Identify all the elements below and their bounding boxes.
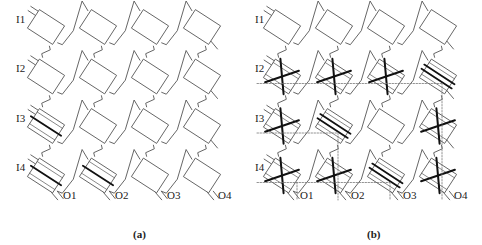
switch-2-2	[315, 59, 352, 94]
switch-3-3	[131, 109, 168, 144]
switch-2-1	[263, 59, 300, 94]
switch-grid-b	[241, 0, 482, 245]
caption-b: (b)	[367, 228, 380, 240]
switch-3-1	[27, 109, 64, 144]
output-label-o1: O1	[63, 190, 76, 201]
switch-2-1	[27, 59, 64, 94]
switch-3-4	[419, 108, 456, 143]
switch-3-4	[183, 109, 220, 144]
switch-1-3	[131, 10, 168, 45]
switch-3-2	[79, 109, 116, 144]
switch-2-3	[131, 59, 168, 94]
output-label-o1: O1	[300, 190, 313, 201]
panel-a: I1 I2 I3 I4 O1 O2 O3 O4 (a)	[0, 0, 241, 245]
switch-1-3	[367, 10, 404, 45]
switch-4-4	[183, 158, 220, 193]
output-label-o4: O4	[454, 190, 467, 201]
switch-4-1	[263, 158, 300, 193]
switch-grid-a	[0, 0, 241, 245]
input-label-i2: I2	[16, 63, 25, 74]
input-label-i3: I3	[255, 113, 264, 124]
input-label-i4: I4	[255, 162, 264, 173]
switch-3-2	[315, 109, 352, 144]
switch-1-2	[315, 10, 352, 45]
output-label-o3: O3	[403, 190, 416, 201]
panel-b: I1 I2 I3 I4 O1 O2 O3 O4 (b)	[241, 0, 482, 245]
caption-a: (a)	[133, 228, 146, 240]
switch-network-figure: I1 I2 I3 I4 O1 O2 O3 O4 (a) I1 I2 I3 I4 …	[0, 0, 482, 245]
switch-2-3	[367, 59, 404, 94]
switch-2-2	[79, 59, 116, 94]
switch-1-4	[183, 10, 220, 45]
switch-4-2	[315, 158, 352, 193]
output-label-o4: O4	[218, 190, 231, 201]
switch-3-1	[263, 108, 300, 143]
input-label-i2: I2	[255, 63, 264, 74]
input-label-i1: I1	[16, 14, 25, 25]
switch-2-4	[419, 59, 456, 94]
switch-4-4	[419, 158, 456, 193]
switch-1-2	[79, 10, 116, 45]
switch-1-1	[263, 10, 300, 45]
switch-4-1	[27, 158, 64, 193]
input-label-i3: I3	[16, 113, 25, 124]
input-label-i4: I4	[16, 162, 25, 173]
switch-3-3	[367, 109, 404, 144]
switch-4-3	[367, 158, 404, 193]
switch-1-4	[419, 10, 456, 45]
switch-4-3	[131, 158, 168, 193]
switch-4-2	[79, 158, 116, 193]
switch-2-4	[183, 59, 220, 94]
switch-1-1	[27, 10, 64, 45]
routing-paths	[257, 84, 442, 201]
output-label-o2: O2	[115, 190, 128, 201]
output-label-o2: O2	[351, 190, 364, 201]
output-label-o3: O3	[167, 190, 180, 201]
input-label-i1: I1	[255, 14, 264, 25]
